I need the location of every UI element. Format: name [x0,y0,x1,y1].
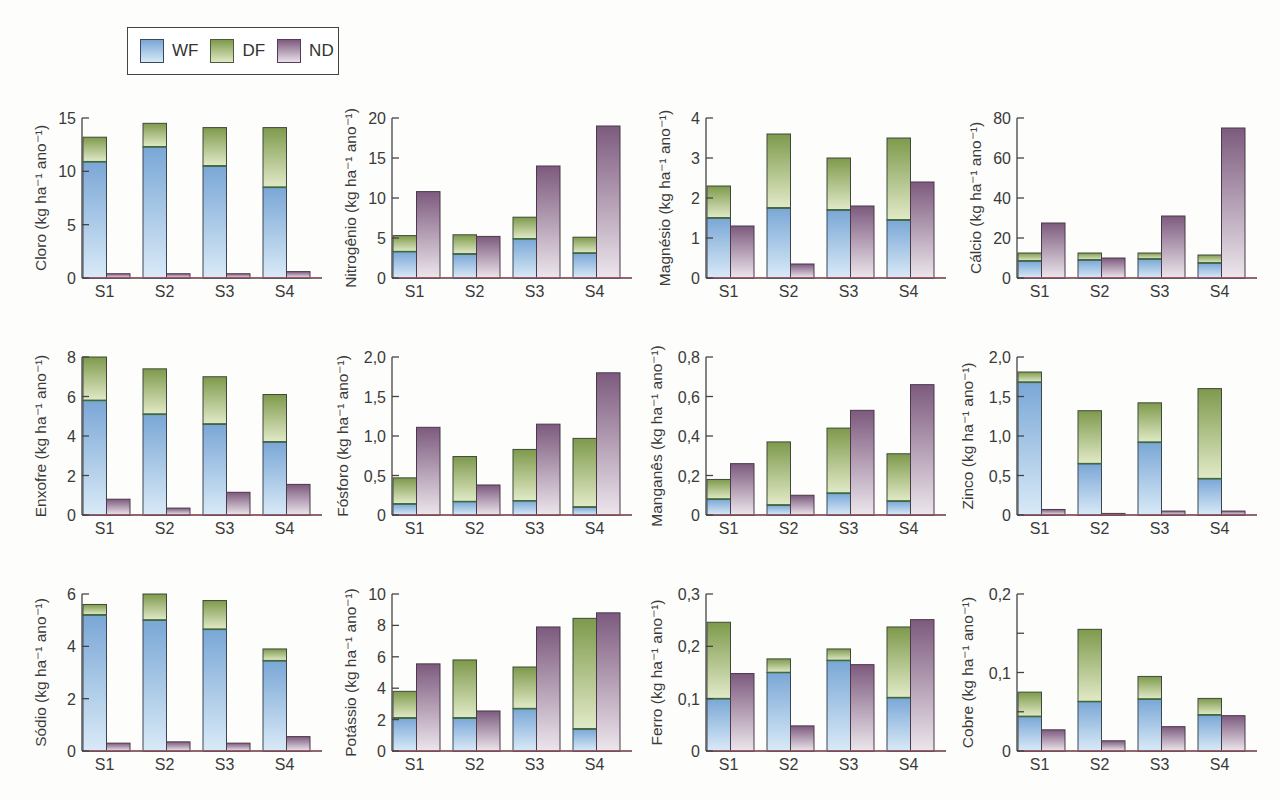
bar-nd [791,264,815,278]
bar-df [203,128,227,166]
y-tick-label: 2 [67,691,76,708]
bar-df [1198,255,1222,263]
bar-df [1078,629,1102,701]
x-tick-label: S2 [1090,756,1110,773]
panel-fósforo: S1S2S3S400,51,01,52,0Fósforo (kg ha⁻¹ an… [334,349,632,537]
y-axis-label: Nitrogênio (kg ha⁻¹ ano⁻¹) [342,108,359,288]
bar-df [1078,253,1102,260]
bar-wf [83,400,107,515]
bar-df [887,627,911,698]
bar-nd [287,737,311,751]
y-axis-label: Fósforo (kg ha⁻¹ ano⁻¹) [334,355,351,517]
y-axis-label: Cobre (kg ha⁻¹ ano⁻¹) [959,597,976,748]
y-tick-label: 0,2 [678,468,700,485]
y-axis-label: Enxofre (kg ha⁻¹ ano⁻¹) [32,355,49,517]
bar-wf [573,729,597,751]
x-tick-label: S3 [839,756,859,773]
y-tick-label: 20 [993,230,1011,247]
bar-df [263,128,287,188]
y-tick-label: 2 [691,190,700,207]
x-tick-label: S1 [405,520,425,537]
bar-df [827,428,851,493]
bar-wf [1078,702,1102,751]
bar-wf [1018,261,1042,278]
y-tick-label: 1,0 [989,428,1011,445]
y-tick-label: 60 [993,150,1011,167]
x-tick-label: S4 [899,756,919,773]
panel-cobre: S1S2S3S400,10,2Cobre (kg ha⁻¹ ano⁻¹) [959,586,1257,773]
y-axis-label: Zinco (kg ha⁻¹ ano⁻¹) [959,363,976,510]
x-tick-label: S1 [405,283,425,300]
bar-wf [393,504,417,515]
x-tick-label: S1 [719,283,739,300]
y-tick-label: 6 [67,389,76,406]
y-tick-label: 6 [377,649,386,666]
y-tick-label: 20 [368,110,386,127]
bar-nd [1222,128,1246,278]
y-tick-label: 4 [377,680,386,697]
bar-df [203,377,227,424]
y-axis-label: Potássio (kg ha⁻¹ ano⁻¹) [342,588,359,757]
bar-nd [477,711,501,751]
bar-nd [851,206,875,278]
bar-df [143,123,167,146]
bar-df [767,659,791,673]
y-tick-label: 0 [1002,507,1011,524]
bar-wf [1018,716,1042,751]
bar-wf [453,502,477,515]
bar-wf [887,220,911,278]
y-tick-label: 0,1 [678,691,700,708]
bar-wf [83,162,107,278]
bar-nd [851,665,875,751]
bar-df [453,660,477,718]
bar-wf [143,620,167,751]
bar-nd [1042,223,1066,278]
bar-wf [573,253,597,278]
bar-df [1018,372,1042,382]
panel-ferro: S1S2S3S400,10,20,3Ferro (kg ha⁻¹ ano⁻¹) [648,586,946,773]
bar-wf [203,424,227,515]
x-tick-label: S3 [215,756,235,773]
y-tick-label: 0,4 [678,428,700,445]
x-tick-label: S3 [525,520,545,537]
bar-nd [477,485,501,515]
x-tick-label: S1 [1030,756,1050,773]
x-tick-label: S4 [275,283,295,300]
bar-nd [1102,258,1126,278]
y-tick-label: 2,0 [989,349,1011,366]
bar-df [1078,411,1102,464]
y-tick-label: 0,3 [678,586,700,603]
bar-wf [887,698,911,751]
bar-df [263,395,287,442]
y-tick-label: 0 [67,507,76,524]
bar-df [573,438,597,507]
bar-nd [107,499,131,515]
y-tick-label: 0 [377,507,386,524]
bar-nd [417,427,441,515]
y-tick-label: 0,5 [989,468,1011,485]
y-tick-label: 80 [993,110,1011,127]
x-tick-label: S4 [899,520,919,537]
bar-df [767,442,791,505]
bar-nd [287,484,311,515]
bar-nd [791,495,815,515]
bar-wf [1198,263,1222,278]
x-tick-label: S3 [525,756,545,773]
bar-df [827,649,851,661]
x-tick-label: S2 [155,283,175,300]
bar-nd [417,664,441,751]
x-tick-label: S1 [95,756,115,773]
bar-wf [1138,442,1162,515]
bar-df [887,138,911,220]
bar-wf [143,147,167,278]
bar-df [707,622,731,698]
bar-wf [827,210,851,278]
bar-df [1018,692,1042,716]
x-tick-label: S3 [215,520,235,537]
bar-wf [767,673,791,752]
y-tick-label: 0,2 [989,586,1011,603]
bar-wf [203,166,227,278]
x-tick-label: S1 [95,283,115,300]
y-tick-label: 0,5 [364,468,386,485]
bar-wf [767,505,791,515]
